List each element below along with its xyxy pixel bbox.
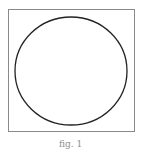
circle-diagram: [0, 0, 141, 155]
circle-shape: [15, 17, 127, 125]
figure-caption: fig. 1: [0, 139, 141, 149]
